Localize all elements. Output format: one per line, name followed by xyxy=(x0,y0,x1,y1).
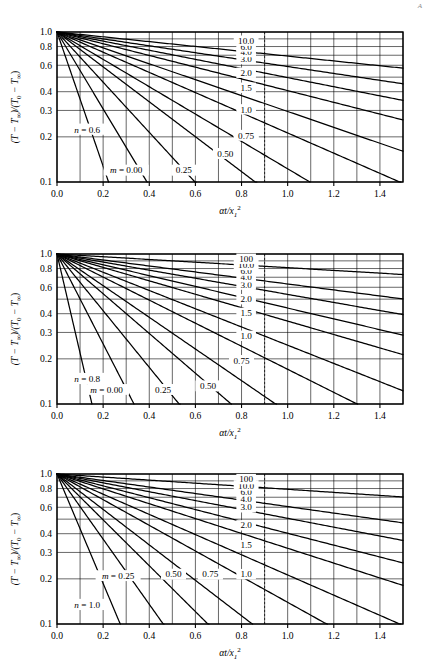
curve-label-10.0: 10.0 xyxy=(238,36,254,46)
curves xyxy=(57,474,403,624)
curve-m-1.5 xyxy=(57,32,401,182)
curve-m-10.0 xyxy=(57,474,403,523)
x-tick-label: 0.8 xyxy=(236,410,248,421)
y-tick-label: 1.0 xyxy=(40,26,52,37)
y-tick-label: 0.8 xyxy=(40,41,52,52)
y-tick-label: 0.3 xyxy=(40,327,52,338)
x-tick-label: 0.2 xyxy=(97,630,109,641)
m-label-0.50: 0.50 xyxy=(165,569,181,579)
y-axis-title: (T − T∞)/(T0 − T∞) xyxy=(9,513,23,586)
y-tick-label: 0.8 xyxy=(40,263,52,274)
x-tick-label: 1.0 xyxy=(282,630,294,641)
x-tick-label: 0.0 xyxy=(51,188,63,199)
y-tick-label: 0.6 xyxy=(40,502,52,513)
y-tick-label: 0.8 xyxy=(40,483,52,494)
x-tick-label: 1.4 xyxy=(374,410,386,421)
curve-m-100 xyxy=(57,474,403,497)
curve-m-100 xyxy=(57,254,403,275)
x-tick-label: 0.2 xyxy=(97,188,109,199)
curve-m-0.50 xyxy=(57,32,196,182)
x-tick-label: 0.0 xyxy=(51,630,63,641)
curve-label-100: 100 xyxy=(239,254,253,264)
x-tick-label: 0.8 xyxy=(236,188,248,199)
y-tick-label: 0.2 xyxy=(40,131,52,142)
x-tick-label: 0.4 xyxy=(143,630,155,641)
x-tick-label: 1.4 xyxy=(374,630,386,641)
x-tick-label: 1.2 xyxy=(328,630,340,641)
m-label-0.75: 0.75 xyxy=(233,356,249,366)
x-tick-label: 0.8 xyxy=(236,630,248,641)
panel-label-n: n = 0.6 xyxy=(74,125,100,135)
chart-panel-1: 0.000.250.500.751.01.52.03.04.06.010.0m … xyxy=(0,0,426,220)
m-label-0.00: m = 0.00 xyxy=(90,385,123,395)
m-label-0.50: 0.50 xyxy=(217,149,233,159)
curve-label-1.5: 1.5 xyxy=(240,540,252,550)
x-axis-title: αt/x12 xyxy=(219,426,241,440)
x-axis-title: αt/x12 xyxy=(219,204,241,218)
y-tick-label: 0.1 xyxy=(40,618,52,629)
curve-m-6.0 xyxy=(57,254,403,315)
x-tick-label: 1.4 xyxy=(374,188,386,199)
curve-m-3.0 xyxy=(57,474,403,585)
x-tick-label: 1.2 xyxy=(328,410,340,421)
x-tick-label: 0.6 xyxy=(189,630,201,641)
x-tick-label: 1.0 xyxy=(282,410,294,421)
curve-label-1.0: 1.0 xyxy=(240,569,252,579)
chart-n-0-8: 0.000.250.500.751.01.52.03.04.06.010.010… xyxy=(0,222,426,442)
x-tick-label: 1.0 xyxy=(282,188,294,199)
m-label-0.25: m = 0.25 xyxy=(102,571,135,581)
chart-panel-2: 0.000.250.500.751.01.52.03.04.06.010.010… xyxy=(0,222,426,442)
y-tick-label: 1.0 xyxy=(40,248,52,259)
m-label-0.00: m = 0.00 xyxy=(110,165,143,175)
chart-panel-3: 0.250.500.751.01.52.03.04.06.010.0100m =… xyxy=(0,442,426,660)
x-tick-label: 0.0 xyxy=(51,410,63,421)
m-label-0.25: 0.25 xyxy=(176,165,192,175)
y-tick-label: 0.4 xyxy=(40,308,52,319)
y-axis-title: (T − T∞)/(T0 − T∞) xyxy=(9,293,23,366)
curves xyxy=(57,32,403,182)
y-tick-label: 0.6 xyxy=(40,60,52,71)
x-axis-ticks: 0.00.20.40.60.81.01.21.4 xyxy=(51,624,386,641)
m-label-0.75: 0.75 xyxy=(238,131,254,141)
x-axis-ticks: 0.00.20.40.60.81.01.21.4 xyxy=(51,404,386,421)
curve-label-1.5: 1.5 xyxy=(240,308,252,318)
y-tick-label: 1.0 xyxy=(40,468,52,479)
curves xyxy=(57,254,403,404)
y-tick-label: 0.3 xyxy=(40,547,52,558)
y-tick-label: 0.2 xyxy=(40,353,52,364)
y-tick-label: 0.4 xyxy=(40,528,52,539)
y-tick-label: 0.1 xyxy=(40,176,52,187)
y-tick-label: 0.3 xyxy=(40,105,52,116)
x-axis-ticks: 0.00.20.40.60.81.01.21.4 xyxy=(51,182,386,199)
m-label-0.75: 0.75 xyxy=(202,569,218,579)
y-axis-ticks: 1.00.80.60.40.30.20.1 xyxy=(40,468,52,629)
y-tick-label: 0.1 xyxy=(40,398,52,409)
curve-m-0.25 xyxy=(57,32,147,182)
panel-label-n: n = 0.8 xyxy=(74,374,100,384)
curve-labels: 0.250.500.751.01.52.03.04.06.010.0100 xyxy=(106,474,259,581)
curve-m-4.0 xyxy=(57,32,403,100)
x-tick-label: 0.2 xyxy=(97,410,109,421)
curve-label-3.0: 3.0 xyxy=(240,502,252,512)
x-tick-label: 0.4 xyxy=(143,188,155,199)
y-axis-title: (T − T∞)/(T0 − T∞) xyxy=(9,71,23,144)
curve-label-1.0: 1.0 xyxy=(240,331,252,341)
y-tick-label: 0.4 xyxy=(40,86,52,97)
y-axis-ticks: 1.00.80.60.40.30.20.1 xyxy=(40,26,52,187)
curve-label-2.0: 2.0 xyxy=(240,520,252,530)
y-axis-ticks: 1.00.80.60.40.30.20.1 xyxy=(40,248,52,409)
curve-label-1.0: 1.0 xyxy=(240,105,252,115)
m-label-0.25: 0.25 xyxy=(155,385,171,395)
curve-label-2.0: 2.0 xyxy=(240,294,252,304)
chart-n-0-6: 0.000.250.500.751.01.52.03.04.06.010.0m … xyxy=(0,0,426,220)
chart-n-1-0: 0.250.500.751.01.52.03.04.06.010.0100m =… xyxy=(0,442,426,660)
curve-label-1.5: 1.5 xyxy=(240,83,252,93)
x-tick-label: 0.4 xyxy=(143,410,155,421)
x-axis-title: αt/x12 xyxy=(219,646,241,660)
m-labels: m = 0.000.250.500.75 xyxy=(84,355,254,395)
curve-label-100: 100 xyxy=(239,474,253,484)
panel-label-n: n = 1.0 xyxy=(74,600,100,610)
curve-m-3.0 xyxy=(57,254,403,355)
curve-label-2.0: 2.0 xyxy=(240,68,252,78)
m-label-0.50: 0.50 xyxy=(200,381,216,391)
